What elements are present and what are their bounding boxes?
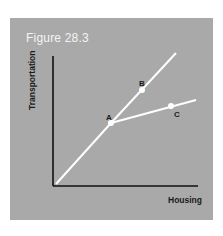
diagram-graphic: A B C (0, 0, 223, 236)
path-a-to-c (111, 100, 196, 123)
point-c-label: C (174, 110, 180, 119)
point-a-label: A (106, 113, 112, 122)
path-origin-to-a (56, 123, 111, 184)
point-b-label: B (139, 79, 145, 88)
point-c-marker (168, 103, 174, 109)
